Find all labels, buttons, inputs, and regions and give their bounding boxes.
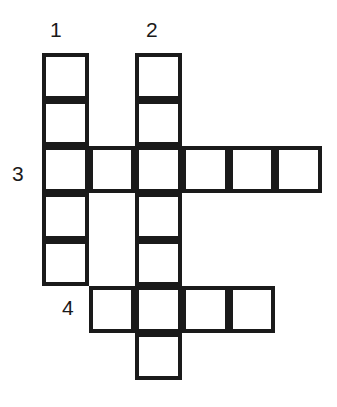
cell-c5r6[interactable] [229,286,276,333]
cell-c1r4[interactable] [42,193,89,240]
clue-number-4: 4 [62,297,74,318]
crossword-grid: 1234 [0,0,337,407]
cell-c6r3[interactable] [275,146,322,193]
cell-c2r3[interactable] [89,146,136,193]
cell-c4r6[interactable] [182,286,229,333]
cell-c3r4[interactable] [135,193,182,240]
cell-c1r5[interactable] [42,240,89,287]
cell-c3r1[interactable] [135,53,182,100]
cell-c3r5[interactable] [135,240,182,287]
cell-c3r2[interactable] [135,100,182,147]
cell-c3r7[interactable] [135,333,182,380]
clue-number-1: 1 [50,19,62,40]
clue-number-3: 3 [12,163,24,184]
cell-c3r3[interactable] [135,146,182,193]
cell-c4r3[interactable] [182,146,229,193]
clue-number-2: 2 [146,19,158,40]
cell-c1r1[interactable] [42,53,89,100]
cell-c1r2[interactable] [42,100,89,147]
cell-c3r6[interactable] [135,286,182,333]
cell-c1r3[interactable] [42,146,89,193]
cell-c2r6[interactable] [89,286,136,333]
cell-c5r3[interactable] [229,146,276,193]
